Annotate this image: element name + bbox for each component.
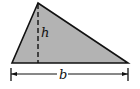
height-label: h bbox=[41, 25, 49, 40]
triangle-diagram: h b bbox=[0, 0, 140, 89]
base-label: b bbox=[59, 67, 67, 82]
triangle bbox=[12, 3, 128, 63]
base-dimension: b bbox=[11, 67, 128, 82]
arrow-left-icon bbox=[11, 72, 17, 76]
arrow-right-icon bbox=[122, 72, 128, 76]
